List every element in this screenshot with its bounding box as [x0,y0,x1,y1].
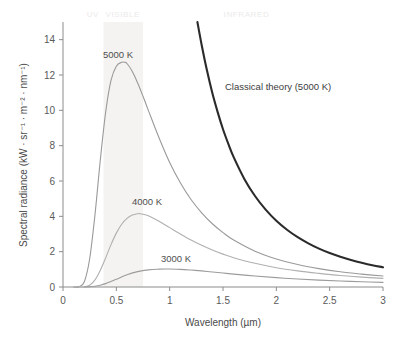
blackbody-radiation-chart: UV VISIBLE INFRARED 02468101214 00.511.5… [0,0,405,342]
curve-label-4000k: 4000 K [132,196,163,207]
x-tick-label: 1.5 [216,295,230,306]
x-tick-label: 2.5 [323,295,337,306]
y-axis-title: Spectral radiance (kW · sr⁻¹ · m⁻² · nm⁻… [18,63,29,247]
y-tick-label: 8 [49,140,55,151]
x-tick-label: 0 [60,295,66,306]
infrared-band-label: INFRARED [224,10,270,19]
x-tick-label: 3 [380,295,386,306]
y-tick-label: 0 [49,282,55,293]
y-tick-label: 12 [44,70,56,81]
x-tick-label: 2 [274,295,280,306]
visible-band-label: VISIBLE [106,10,140,19]
x-axis-title: Wavelength (µm) [185,317,261,328]
curve-label-3000k: 3000 K [161,253,192,264]
chart-canvas: UV VISIBLE INFRARED 02468101214 00.511.5… [0,0,405,342]
x-tick-label: 0.5 [109,295,123,306]
y-tick-label: 4 [49,211,55,222]
y-tick-label: 6 [49,176,55,187]
y-tick-label: 14 [44,34,56,45]
y-tick-label: 10 [44,105,56,116]
y-tick-label: 2 [49,246,55,257]
uv-band-label: UV [87,10,99,19]
x-tick-label: 1 [167,295,173,306]
curve-label-classical-theory: Classical theory (5000 K) [225,81,331,92]
curve-label-5000k: 5000 K [103,49,134,60]
